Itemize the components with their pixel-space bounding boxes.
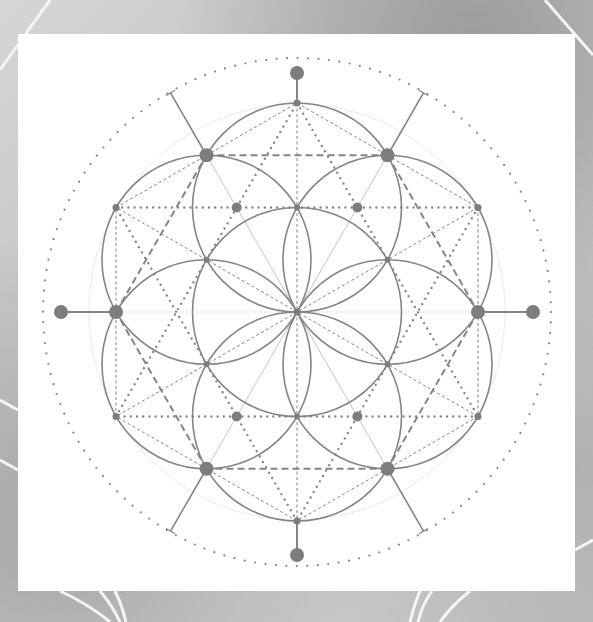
nodes	[54, 66, 540, 562]
star-intersection-node	[232, 412, 242, 422]
outer-node-left	[54, 305, 68, 319]
hexagon-node	[109, 305, 123, 319]
tip-node	[113, 204, 120, 211]
spoke-end-tick	[419, 90, 428, 95]
dashed-hexagon-edge	[387, 312, 477, 469]
dashed-hexagon-edge	[387, 155, 477, 312]
spoke-line	[171, 469, 207, 531]
hexagon-node	[380, 462, 394, 476]
petal-center-node	[294, 205, 300, 211]
spoke-line	[171, 93, 207, 155]
center-node	[294, 309, 301, 316]
tip-node	[294, 518, 301, 525]
star-intersection-node	[232, 203, 242, 213]
outer-node-bottom	[290, 548, 304, 562]
hexagon-node	[200, 462, 214, 476]
petal-center-node	[384, 257, 390, 263]
outer-node-right	[526, 305, 540, 319]
spoke-line	[387, 93, 423, 155]
tip-node	[474, 413, 481, 420]
outer-node-top	[290, 66, 304, 80]
hexagon-node	[380, 148, 394, 162]
star-intersection-node	[352, 412, 362, 422]
petal-center-node	[204, 361, 210, 367]
hexagon-node	[471, 305, 485, 319]
dashed-hexagon-edge	[116, 155, 206, 312]
petal-center-node	[384, 361, 390, 367]
tip-node	[113, 413, 120, 420]
dashed-hexagon-edge	[116, 312, 206, 469]
tip-node	[294, 100, 301, 107]
star-intersection-node	[352, 203, 362, 213]
tip-node	[474, 204, 481, 211]
petal-center-node	[204, 257, 210, 263]
spoke-line	[387, 469, 423, 531]
hexagon-node	[200, 148, 214, 162]
petal-center-node	[294, 414, 300, 420]
seed-of-life-figure	[0, 0, 593, 622]
